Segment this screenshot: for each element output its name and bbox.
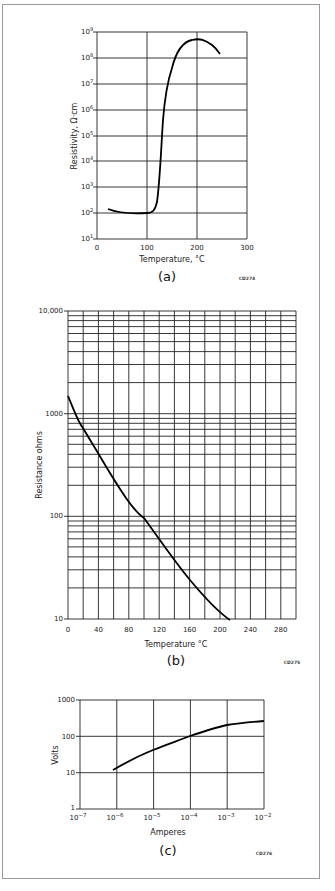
svg-text:10−4: 10−4: [180, 812, 198, 822]
svg-text:104: 104: [81, 155, 93, 165]
chart-a: 109 108 107 106 105 104 103 102 101 0 10…: [70, 26, 255, 284]
svg-text:200: 200: [213, 626, 226, 634]
chart-b-x-ticks: 0 40 80 120 160 200 240 280: [66, 626, 288, 634]
chart-c-grid: [76, 700, 264, 809]
chart-c-curve: [113, 721, 264, 770]
svg-text:160: 160: [183, 626, 196, 634]
svg-text:1000: 1000: [45, 410, 63, 418]
svg-text:10: 10: [54, 615, 63, 623]
svg-text:240: 240: [244, 626, 257, 634]
svg-text:102: 102: [81, 207, 93, 217]
chart-a-grid: [93, 32, 247, 239]
svg-text:120: 120: [153, 626, 166, 634]
svg-text:0: 0: [66, 626, 70, 634]
chart-c-ylabel: Volts: [51, 745, 60, 764]
svg-text:300: 300: [240, 244, 253, 252]
chart-c-x-ticks: 10−7 10−6 10−5 10−4 10−3 10−2: [69, 812, 271, 822]
svg-text:10−2: 10−2: [254, 812, 271, 822]
svg-text:100: 100: [140, 244, 153, 252]
svg-text:80: 80: [124, 626, 133, 634]
svg-text:200: 200: [190, 244, 203, 252]
chart-c: 1000 100 10 1 10−7 10−6 10−5 10−4 10−3 1…: [51, 696, 272, 858]
svg-text:10−3: 10−3: [217, 812, 235, 822]
svg-text:105: 105: [81, 130, 93, 140]
svg-text:1: 1: [71, 804, 75, 812]
svg-text:106: 106: [81, 104, 93, 114]
svg-text:10,000: 10,000: [39, 307, 64, 315]
chart-b-code: CD275: [284, 660, 300, 665]
chart-b-xlabel: Temperature °C: [144, 640, 208, 649]
chart-b-grid: [64, 311, 296, 619]
chart-b: 10,000 1000 100 10 0 40 80 120 160 200 2…: [35, 307, 300, 668]
svg-text:40: 40: [94, 626, 103, 634]
svg-text:10−6: 10−6: [106, 812, 124, 822]
svg-text:100: 100: [50, 512, 63, 520]
svg-text:107: 107: [81, 78, 93, 88]
svg-text:0: 0: [95, 244, 99, 252]
chart-a-caption: (a): [158, 269, 176, 284]
svg-text:280: 280: [274, 626, 287, 634]
chart-a-y-ticks: 109 108 107 106 105 104 103 102 101: [81, 26, 93, 243]
chart-a-ylabel: Resistivity, Ω·cm: [70, 102, 79, 169]
svg-text:10−5: 10−5: [143, 812, 161, 822]
chart-a-xlabel: Temperature, °C: [138, 255, 205, 264]
svg-text:103: 103: [81, 181, 93, 191]
chart-a-code: CD274: [239, 276, 255, 281]
figure-canvas: 109 108 107 106 105 104 103 102 101 0 10…: [0, 0, 335, 891]
svg-text:109: 109: [81, 26, 93, 36]
svg-text:10: 10: [66, 769, 75, 777]
svg-text:108: 108: [81, 52, 93, 62]
svg-text:100: 100: [62, 733, 75, 741]
svg-text:1000: 1000: [57, 696, 75, 704]
svg-text:10−7: 10−7: [69, 812, 87, 822]
chart-b-ylabel: Resistance ohms: [35, 431, 44, 499]
chart-b-caption: (b): [167, 653, 185, 668]
chart-c-xlabel: Amperes: [150, 828, 185, 837]
chart-c-caption: (c): [159, 843, 176, 858]
svg-text:101: 101: [81, 233, 93, 243]
chart-c-code: CD276: [256, 851, 272, 856]
chart-a-x-ticks: 0 100 200 300: [95, 244, 254, 252]
